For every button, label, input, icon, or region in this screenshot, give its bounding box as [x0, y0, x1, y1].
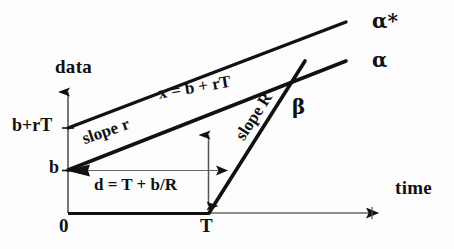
origin-label: 0: [59, 216, 69, 235]
x-tick-label-T: T: [200, 216, 213, 235]
y-tick-label-upper: b+rT: [12, 116, 52, 134]
diagram-canvas: data time b+rT b 0 T α* α β x = b + rT d…: [0, 0, 454, 249]
diagram-svg: [0, 0, 454, 249]
alpha-star-label: α*: [372, 11, 398, 31]
y-axis-label: data: [55, 57, 92, 76]
x-axis-label: time: [395, 178, 432, 197]
y-tick-label-lower: b: [49, 158, 59, 176]
beta-label: β: [292, 97, 305, 117]
delay-equation-label: d = T + b/R: [94, 176, 177, 193]
alpha-label: α: [372, 50, 387, 70]
